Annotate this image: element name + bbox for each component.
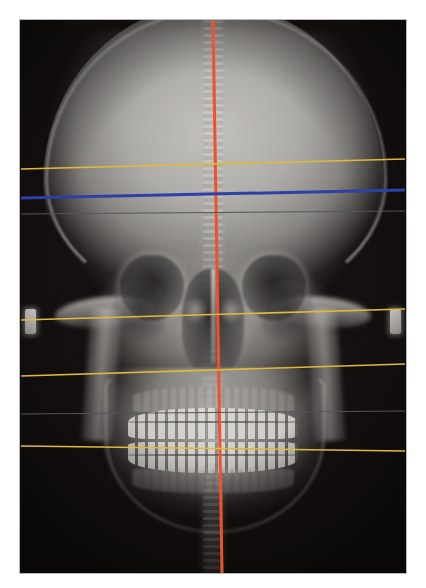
analysis-overlay	[20, 20, 406, 573]
occlusal-reference-line[interactable]	[21, 446, 405, 451]
zygomatic-reference-line[interactable]	[21, 309, 405, 320]
tracing-lines	[20, 20, 406, 573]
maxillary-reference-line[interactable]	[21, 364, 405, 376]
radiograph-film[interactable]	[20, 20, 406, 573]
radiograph-viewer	[0, 0, 426, 588]
lower-construction-line[interactable]	[21, 411, 405, 414]
midsagittal-midline[interactable]	[213, 20, 222, 573]
orbital-transverse-line[interactable]	[21, 190, 405, 198]
upper-construction-line[interactable]	[21, 211, 405, 214]
supraorbital-reference-line[interactable]	[21, 159, 405, 169]
